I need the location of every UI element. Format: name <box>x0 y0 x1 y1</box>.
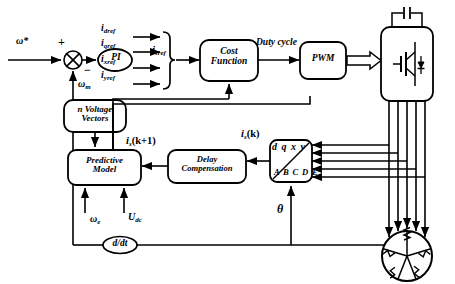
duty-cycle-label: Duty cycle <box>256 38 297 48</box>
transform-bottom-label: A B C D E <box>274 168 318 177</box>
delay-compensation-label: Delay Compensation <box>168 155 246 173</box>
reference-brace <box>163 32 175 89</box>
capacitor-right-lead <box>411 13 422 27</box>
omega-e-label: ωe <box>90 214 100 226</box>
predictive-model-label: Predictive Model <box>68 156 141 175</box>
plus-sign-label: + <box>58 36 65 49</box>
i-qref-label: iqref <box>101 38 115 50</box>
speed-feedback-label: ωm <box>78 79 91 91</box>
is-k-label: is(k) <box>241 128 260 141</box>
capacitor-left-lead <box>392 13 403 27</box>
udc-label: Udc <box>128 212 142 224</box>
i-xref-label: ixref <box>101 54 115 66</box>
is-k-plus-1-label: is(k+1) <box>126 135 156 148</box>
diagram-canvas <box>0 0 455 284</box>
minus-sign-label: − <box>84 64 91 77</box>
cost-function-label: Cost Function <box>200 47 258 67</box>
i-dref-label: idref <box>101 23 115 35</box>
i-yref-label: iyref <box>101 70 115 82</box>
transform-top-label: d q x y <box>272 142 306 153</box>
voltage-vectors-label: n Voltage Vectors <box>64 105 126 124</box>
pwm-label: PWM <box>300 54 346 64</box>
gating-signals-arrow <box>347 52 381 69</box>
control-block-diagram: ω* + − ωm PI idref iqref ixref iyref isr… <box>0 0 455 284</box>
derivative-label: d/dt <box>104 239 136 249</box>
speed-reference-label: ω* <box>16 36 28 47</box>
theta-label: θ <box>277 203 283 216</box>
i-sref-label: isref <box>152 44 166 57</box>
